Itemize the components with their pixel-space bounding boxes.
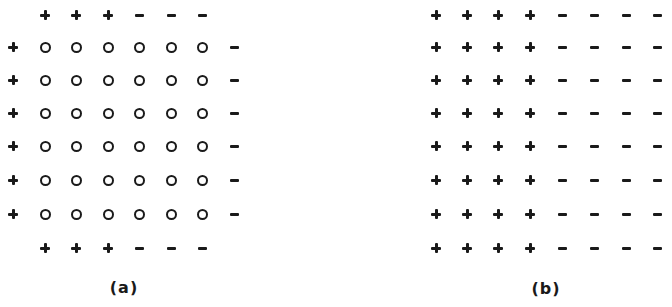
open-circle-icon — [101, 207, 115, 221]
open-circle-icon — [164, 173, 178, 187]
plus-sign-icon — [101, 8, 115, 22]
open-circle-icon — [164, 139, 178, 153]
open-circle-icon — [69, 173, 83, 187]
open-circle-icon — [195, 40, 209, 54]
minus-sign-icon — [587, 8, 601, 22]
open-circle-icon — [195, 106, 209, 120]
minus-sign-icon — [587, 241, 601, 255]
plus-sign-icon — [429, 207, 443, 221]
plus-sign-icon — [6, 106, 20, 120]
panel-a-caption: (a) — [110, 278, 138, 297]
open-circle-icon — [132, 40, 146, 54]
open-circle-icon — [101, 40, 115, 54]
plus-sign-icon — [460, 207, 474, 221]
open-circle-icon — [38, 139, 52, 153]
minus-sign-icon — [555, 173, 569, 187]
open-circle-icon — [69, 139, 83, 153]
minus-sign-icon — [555, 40, 569, 54]
minus-sign-icon — [587, 207, 601, 221]
open-circle-icon — [38, 207, 52, 221]
minus-sign-icon — [555, 106, 569, 120]
minus-sign-icon — [619, 207, 633, 221]
plus-sign-icon — [460, 40, 474, 54]
plus-sign-icon — [429, 73, 443, 87]
plus-sign-icon — [429, 8, 443, 22]
minus-sign-icon — [164, 8, 178, 22]
plus-sign-icon — [491, 40, 505, 54]
open-circle-icon — [38, 40, 52, 54]
open-circle-icon — [132, 139, 146, 153]
minus-sign-icon — [227, 207, 241, 221]
minus-sign-icon — [555, 73, 569, 87]
minus-sign-icon — [587, 106, 601, 120]
minus-sign-icon — [619, 73, 633, 87]
minus-sign-icon — [619, 8, 633, 22]
minus-sign-icon — [227, 73, 241, 87]
plus-sign-icon — [429, 173, 443, 187]
minus-sign-icon — [555, 139, 569, 153]
minus-sign-icon — [650, 139, 664, 153]
open-circle-icon — [101, 173, 115, 187]
open-circle-icon — [132, 207, 146, 221]
plus-sign-icon — [523, 73, 537, 87]
plus-sign-icon — [6, 73, 20, 87]
minus-sign-icon — [619, 139, 633, 153]
minus-sign-icon — [650, 8, 664, 22]
minus-sign-icon — [555, 207, 569, 221]
plus-sign-icon — [523, 173, 537, 187]
minus-sign-icon — [619, 40, 633, 54]
open-circle-icon — [101, 106, 115, 120]
open-circle-icon — [69, 106, 83, 120]
plus-sign-icon — [523, 106, 537, 120]
minus-sign-icon — [555, 241, 569, 255]
minus-sign-icon — [587, 139, 601, 153]
open-circle-icon — [164, 73, 178, 87]
open-circle-icon — [195, 139, 209, 153]
figure: (a) (b) — [0, 0, 672, 307]
open-circle-icon — [69, 40, 83, 54]
open-circle-icon — [164, 207, 178, 221]
plus-sign-icon — [523, 207, 537, 221]
plus-sign-icon — [460, 241, 474, 255]
plus-sign-icon — [429, 241, 443, 255]
plus-sign-icon — [523, 40, 537, 54]
plus-sign-icon — [38, 241, 52, 255]
minus-sign-icon — [650, 173, 664, 187]
open-circle-icon — [164, 106, 178, 120]
plus-sign-icon — [6, 139, 20, 153]
plus-sign-icon — [6, 40, 20, 54]
plus-sign-icon — [491, 173, 505, 187]
plus-sign-icon — [69, 241, 83, 255]
open-circle-icon — [164, 40, 178, 54]
minus-sign-icon — [650, 40, 664, 54]
plus-sign-icon — [460, 139, 474, 153]
plus-sign-icon — [429, 106, 443, 120]
open-circle-icon — [132, 73, 146, 87]
open-circle-icon — [132, 173, 146, 187]
open-circle-icon — [195, 173, 209, 187]
plus-sign-icon — [460, 73, 474, 87]
minus-sign-icon — [650, 73, 664, 87]
open-circle-icon — [38, 173, 52, 187]
minus-sign-icon — [555, 8, 569, 22]
panel-b-caption: (b) — [531, 279, 560, 298]
plus-sign-icon — [429, 139, 443, 153]
open-circle-icon — [101, 139, 115, 153]
plus-sign-icon — [491, 8, 505, 22]
minus-sign-icon — [227, 173, 241, 187]
minus-sign-icon — [587, 73, 601, 87]
open-circle-icon — [38, 73, 52, 87]
plus-sign-icon — [429, 40, 443, 54]
plus-sign-icon — [460, 106, 474, 120]
minus-sign-icon — [619, 241, 633, 255]
minus-sign-icon — [619, 106, 633, 120]
minus-sign-icon — [195, 8, 209, 22]
open-circle-icon — [195, 207, 209, 221]
plus-sign-icon — [101, 241, 115, 255]
plus-sign-icon — [491, 106, 505, 120]
plus-sign-icon — [6, 207, 20, 221]
open-circle-icon — [38, 106, 52, 120]
open-circle-icon — [101, 73, 115, 87]
minus-sign-icon — [587, 173, 601, 187]
open-circle-icon — [69, 207, 83, 221]
